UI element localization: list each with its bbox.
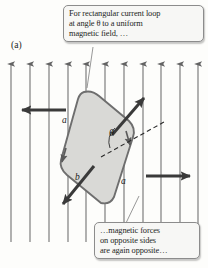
top-callout-leader bbox=[87, 47, 93, 88]
panel-label: (a) bbox=[11, 39, 22, 50]
top-callout-line-2: at angle θ to a uniform bbox=[69, 19, 199, 29]
bottom-callout-leader bbox=[126, 196, 139, 223]
angle-label-theta: θ bbox=[109, 127, 114, 138]
top-callout: For rectangular current loop at angle θ … bbox=[63, 5, 204, 42]
side-label-b-left: b bbox=[75, 172, 80, 182]
bottom-callout-line-2: on opposite sides bbox=[100, 236, 195, 246]
top-callout-line-1: For rectangular current loop bbox=[69, 9, 199, 19]
bottom-callout-line-1: …magnetic forces bbox=[100, 226, 195, 236]
bottom-callout: …magnetic forces on opposite sides are a… bbox=[94, 222, 200, 259]
current-loop bbox=[61, 92, 134, 204]
side-label-a-left: a bbox=[62, 115, 67, 125]
side-label-a-right: a bbox=[121, 176, 126, 186]
figure-panel: (a) For rectangular current loop at angl… bbox=[0, 0, 208, 268]
top-callout-line-3: magnetic field, … bbox=[69, 29, 199, 39]
bottom-callout-line-3: are again opposite… bbox=[100, 246, 195, 256]
